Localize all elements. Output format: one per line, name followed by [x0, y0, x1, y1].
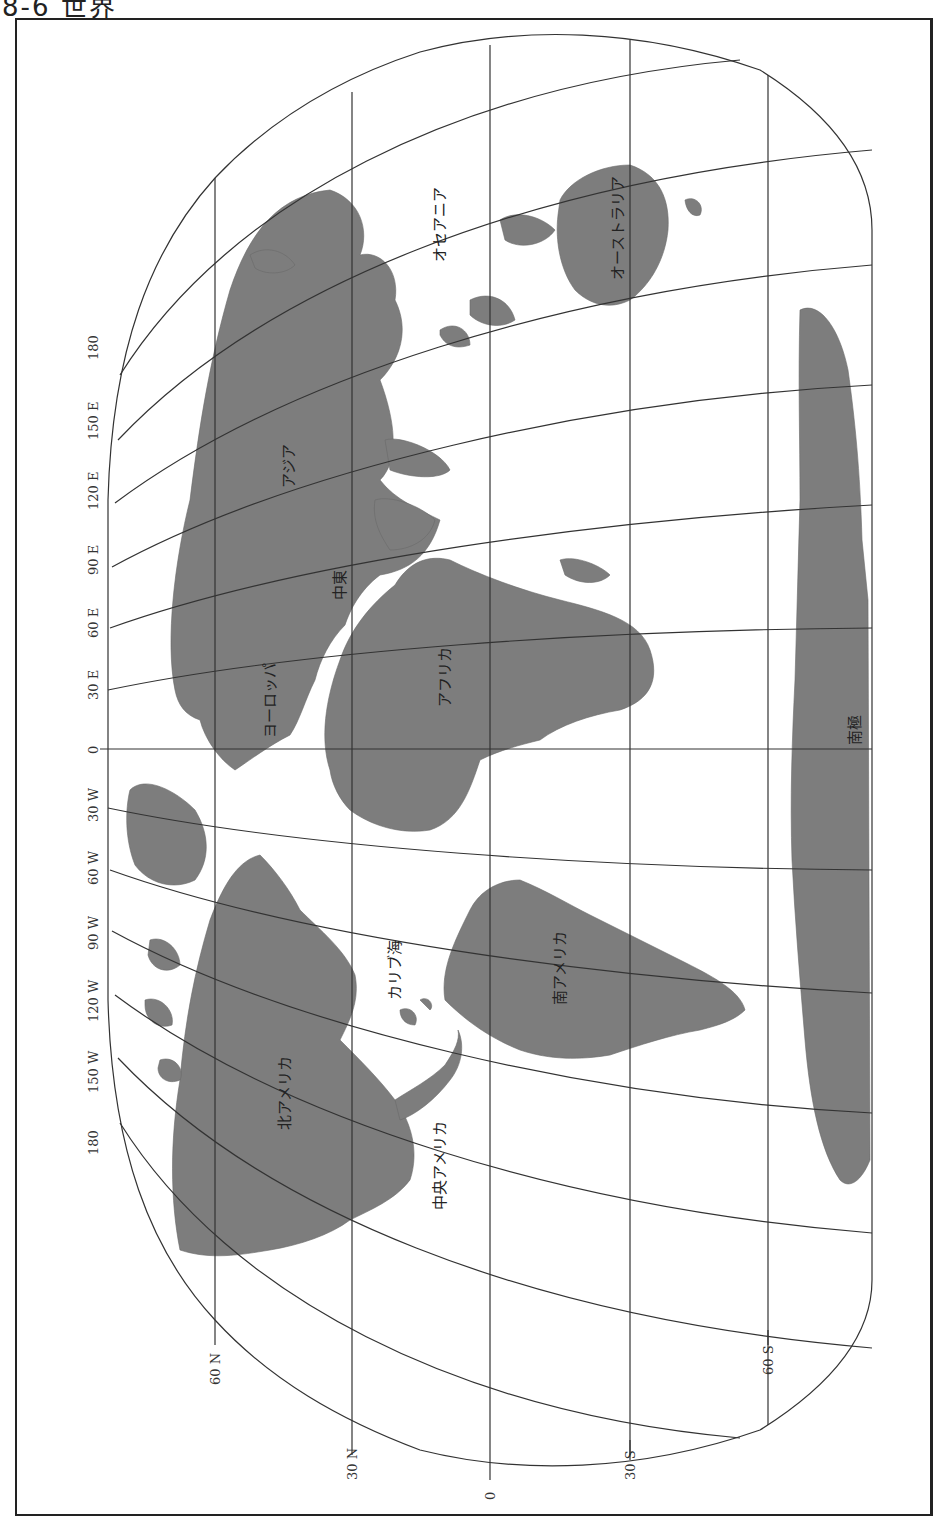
lat-label-30s: 30 S	[623, 1450, 638, 1480]
region-label-oceania: オセアニア	[431, 187, 449, 262]
lon-label-120e: 120 E	[86, 472, 101, 510]
region-label-north-america: 北アメリカ	[276, 1056, 294, 1130]
region-label-caribbean: カリブ海	[386, 940, 404, 1000]
lon-label-150w: 150 W	[86, 1050, 101, 1093]
lat-label-60s: 60 S	[761, 1345, 776, 1375]
lon-label-60w: 60 W	[86, 850, 101, 885]
lon-label-30w: 30 W	[86, 787, 101, 822]
lat-label-60n: 60 N	[208, 1353, 223, 1385]
lon-label-90w: 90 W	[86, 915, 101, 950]
region-label-antarctica: 南極	[846, 715, 864, 745]
region-label-south-america: 南アメリカ	[551, 931, 569, 1005]
region-label-australia: オーストラリア	[609, 176, 627, 280]
lon-label-0: 0	[86, 746, 101, 754]
region-label-europe: ヨーロッパ	[261, 663, 279, 738]
landmass-india	[385, 439, 450, 477]
landmass-antarctica	[791, 308, 870, 1184]
landmass-africa	[325, 558, 654, 831]
landmass-arctic-islands	[145, 939, 181, 1082]
landmass-greenland	[127, 784, 207, 885]
lon-label-180w: 180	[86, 1130, 101, 1155]
lon-label-30e: 30 E	[86, 670, 101, 700]
lon-label-120w: 120 W	[86, 979, 101, 1022]
landmass-central-america	[395, 1030, 462, 1120]
land-masses	[127, 165, 870, 1256]
lat-label-30n: 30 N	[345, 1448, 360, 1480]
lon-label-150e: 150 E	[86, 402, 101, 440]
region-label-central-america: 中央アメリカ	[431, 1121, 449, 1210]
lon-label-60e: 60 E	[86, 608, 101, 638]
lon-label-180e: 180	[86, 335, 101, 360]
latitude-labels: 60 N 30 N 0 30 S 60 S	[208, 1320, 776, 1500]
region-label-middle-east: 中東	[331, 570, 349, 600]
region-label-africa: アフリカ	[436, 647, 454, 707]
lon-label-90e: 90 E	[86, 545, 101, 575]
landmass-caribbean-islands	[400, 999, 432, 1025]
lat-label-0: 0	[483, 1492, 498, 1500]
world-map: 180 150 E 120 E 90 E 60 E 30 E 0 30 W 60…	[0, 0, 940, 1525]
region-label-asia: アジア	[280, 444, 298, 488]
longitude-labels: 180 150 E 120 E 90 E 60 E 30 E 0 30 W 60…	[86, 335, 101, 1155]
landmass-madagascar	[560, 559, 610, 583]
landmass-new-zealand	[685, 199, 701, 216]
